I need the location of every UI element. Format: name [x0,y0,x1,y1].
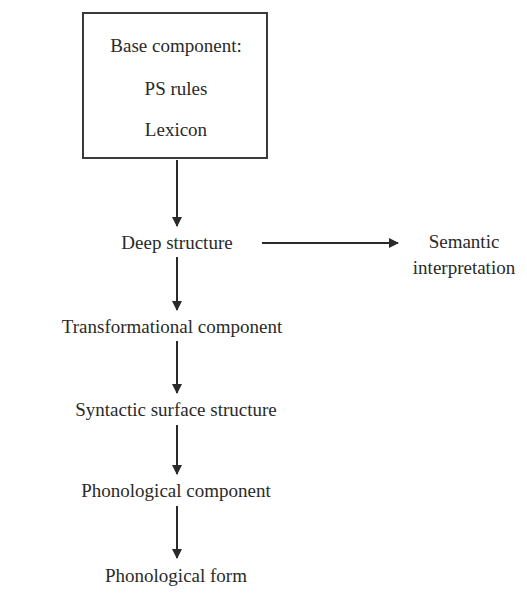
connector-arrows [0,0,527,604]
